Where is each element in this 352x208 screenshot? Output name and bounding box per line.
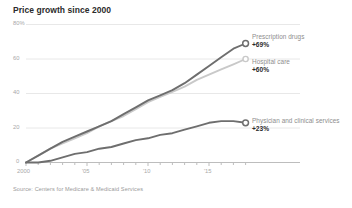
y-axis-tick-0: 0: [16, 158, 19, 164]
y-axis-tick-80: 80%: [13, 20, 25, 26]
series-physician-and-clinical-services: [26, 120, 249, 163]
chart-plot-area: [0, 0, 352, 208]
annotation-value-prescription-drugs: +69%: [252, 41, 304, 50]
annotation-value-hospital-care: +60%: [252, 66, 290, 75]
endpoint-marker-hospital-care: [243, 56, 248, 61]
x-axis-tick-05: '05: [82, 168, 90, 174]
endpoint-marker-prescription-drugs: [243, 41, 249, 47]
x-axis-tick-15: '15: [204, 168, 212, 174]
y-axis-tick-20: 20: [13, 124, 19, 130]
chart-container: Price growth since 2000: [0, 0, 352, 208]
annotation-label-prescription-drugs: Prescription drugs: [252, 33, 304, 41]
series-hospital-care: [26, 56, 248, 162]
x-axis: [26, 163, 300, 167]
annotation-physician-and-clinical-services: Physician and clinical services +23%: [252, 117, 340, 134]
annotation-value-physician-and-clinical-services: +23%: [252, 125, 340, 134]
annotation-label-hospital-care: Hospital care: [252, 58, 290, 66]
y-axis-tick-60: 60: [13, 55, 19, 61]
x-axis-tick-2000: 2000: [17, 168, 30, 174]
annotation-prescription-drugs: Prescription drugs +69%: [252, 33, 304, 50]
x-axis-tick-10: '10: [143, 168, 151, 174]
y-axis-tick-40: 40: [13, 89, 19, 95]
endpoint-marker-physician-and-clinical-services: [243, 120, 249, 126]
annotation-hospital-care: Hospital care +60%: [252, 58, 290, 75]
annotation-label-physician-and-clinical-services: Physician and clinical services: [252, 117, 340, 125]
source-note: Source: Centers for Medicare & Medicaid …: [13, 186, 143, 192]
